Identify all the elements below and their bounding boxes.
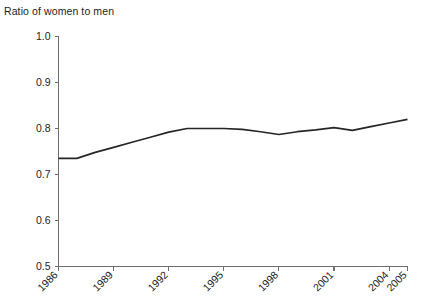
y-tick-label: 0.6 — [36, 214, 51, 226]
chart-figure: Ratio of women to men 1.00.90.80.70.60.5… — [0, 0, 422, 305]
line-chart-plot: 1.00.90.80.70.60.5 198619891992199519982… — [0, 0, 422, 305]
data-line-series — [59, 119, 408, 158]
x-tick-label: 1995 — [200, 268, 225, 293]
x-tick-label: 1998 — [255, 268, 280, 293]
y-tick-label: 0.7 — [36, 168, 51, 180]
y-tick-label: 0.9 — [36, 76, 51, 88]
x-tick-label: 1989 — [90, 268, 115, 293]
y-axis: 1.00.90.80.70.60.5 — [36, 30, 59, 272]
x-tick-label: 2001 — [310, 268, 335, 293]
y-tick-label: 1.0 — [36, 30, 51, 42]
data-series-group — [59, 119, 408, 158]
x-axis: 19861989199219951998200120042005 — [35, 267, 409, 294]
x-tick-label: 2005 — [384, 268, 409, 293]
x-tick-label: 1992 — [145, 268, 170, 293]
y-tick-label: 0.8 — [36, 122, 51, 134]
